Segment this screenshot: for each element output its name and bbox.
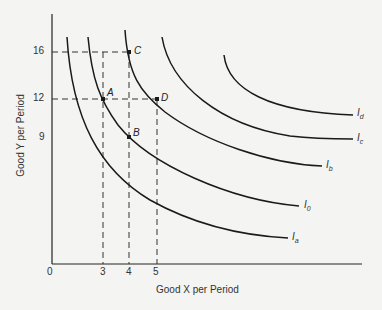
curve-Ia xyxy=(67,37,288,238)
point-label-B: B xyxy=(133,127,140,138)
x-tick-0: 0 xyxy=(47,266,53,277)
point-label-C: C xyxy=(134,45,141,56)
x-axis-title: Good X per Period xyxy=(156,284,239,295)
x-tick-3: 3 xyxy=(100,266,106,277)
curve-label-Ib: Ib xyxy=(326,159,333,172)
curve-Ic xyxy=(162,37,353,139)
curve-label-Ic: Ic xyxy=(357,132,363,145)
y-axis-title: Good Y per Period xyxy=(15,94,26,176)
curve-label-Id: Id xyxy=(357,107,364,120)
curve-label-I0: I0 xyxy=(304,199,311,212)
point-label-D: D xyxy=(161,92,168,103)
curve-I0 xyxy=(88,37,299,206)
indifference-curve-diagram: 0 3 4 5 16 12 9 Good X per Period Good Y… xyxy=(0,0,382,310)
curve-Id xyxy=(224,55,353,115)
y-tick-12: 12 xyxy=(33,92,44,103)
curve-Ib xyxy=(125,30,322,166)
x-tick-4: 4 xyxy=(126,266,132,277)
y-tick-9: 9 xyxy=(39,131,45,142)
point-label-A: A xyxy=(107,87,114,98)
x-tick-5: 5 xyxy=(153,266,159,277)
y-tick-16: 16 xyxy=(33,45,44,56)
plot-area xyxy=(0,0,382,310)
curve-label-Ia: Ia xyxy=(292,231,299,244)
